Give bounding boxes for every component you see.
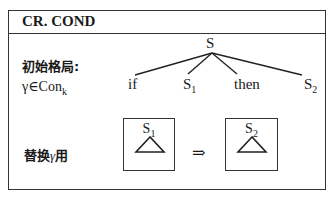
tree-root: S	[206, 35, 214, 52]
replace-label: 替换γ用	[24, 145, 68, 164]
tree-child-s2: S2	[304, 76, 317, 95]
subtree-box-from: S1	[123, 118, 175, 171]
tree-child-s1: S1	[183, 76, 196, 95]
subtree-box-to: S2	[225, 118, 278, 171]
tree-child-if: if	[128, 76, 137, 93]
tree-child-then: then	[234, 76, 260, 93]
implies-arrow: ⇒	[192, 143, 205, 162]
triangle-icon	[124, 119, 176, 172]
triangle-icon	[226, 119, 279, 172]
